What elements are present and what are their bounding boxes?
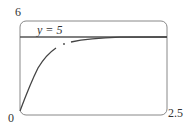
curve-lower-segment <box>20 48 56 111</box>
plot-area <box>0 0 187 131</box>
curve-point <box>63 43 65 45</box>
plot-frame <box>20 21 167 115</box>
curve-upper-segment <box>71 37 167 42</box>
